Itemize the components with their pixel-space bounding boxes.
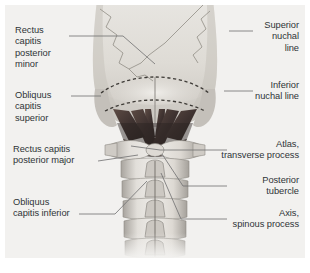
illustration-panel: Rectus capitis posterior minor Obliquus … bbox=[5, 5, 305, 258]
label-axis-spinous-process: Axis, spinous process bbox=[207, 208, 299, 231]
label-atlas-transverse-process: Atlas, transverse process bbox=[207, 139, 299, 162]
atlas-transverse-process-left bbox=[105, 143, 117, 157]
label-obliquus-capitis-inferior: Obliquus capitis inferior bbox=[13, 197, 87, 220]
cranium-group bbox=[93, 5, 217, 127]
label-rectus-capitis-posterior-major: Rectus capitis posterior major bbox=[13, 144, 99, 167]
label-inferior-nuchal-line: Inferior nuchal line bbox=[225, 80, 299, 103]
label-obliquus-capitis-superior: Obliquus capitis superior bbox=[15, 90, 73, 124]
anatomy-figure: Rectus capitis posterior minor Obliquus … bbox=[0, 0, 310, 273]
label-superior-nuchal-line: Superior nuchal line bbox=[233, 20, 299, 54]
label-rectus-capitis-posterior-minor: Rectus capitis posterior minor bbox=[15, 25, 73, 71]
bottom-fade bbox=[5, 233, 305, 258]
label-posterior-tubercle: Posterior tubercle bbox=[227, 175, 299, 198]
